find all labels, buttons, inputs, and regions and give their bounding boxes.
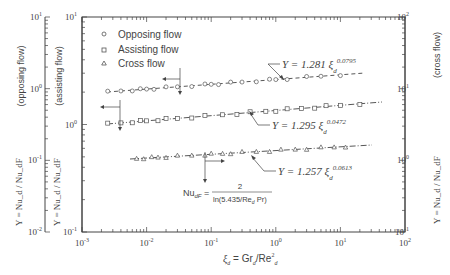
data-point [156, 119, 160, 123]
data-point [203, 113, 207, 117]
annotations: Opposing flow Assisting flow Cross flow … [14, 29, 442, 266]
legend: Opposing flow Assisting flow Cross flow [102, 29, 182, 69]
arrow-down-icon [203, 179, 207, 183]
data-point [209, 151, 213, 155]
y-tick-label: 100 [30, 83, 42, 94]
left-axis-title: Y = Nu_d / Nu_dF [52, 158, 62, 226]
y-tick-label: 100 [65, 119, 77, 130]
data-point [119, 121, 123, 125]
y-tick-label: 100 [397, 154, 409, 165]
legend-square-icon [102, 48, 106, 52]
svg-text:Y = 1.295 ξd0.0472: Y = 1.295 ξd0.0472 [272, 118, 347, 136]
legend-triangle-icon [102, 61, 107, 65]
data-point [203, 82, 207, 86]
right-axis-sub: (cross flow) [432, 32, 442, 78]
x-tick-label: 101 [334, 237, 346, 248]
y-tick-label: 10-1 [28, 154, 42, 165]
data-point [164, 85, 168, 89]
data-point [264, 109, 268, 113]
data-point [119, 89, 123, 93]
data-point [175, 85, 179, 89]
axes: 10-310-210-110010110210-210-110010110-11… [28, 11, 411, 248]
data-point [240, 149, 244, 153]
data-point [221, 113, 225, 117]
data-point [175, 116, 179, 120]
arrow-down-icon [178, 91, 182, 95]
data-point [190, 85, 194, 89]
data-point [267, 149, 271, 153]
data-point [274, 78, 278, 82]
fit-label-middle: Y = 1.295 ξd0.0472 [249, 111, 347, 136]
chart-svg: 10-310-210-110010110210-210-110010110-11… [0, 0, 450, 275]
svg-text:NudF =: NudF = [183, 188, 209, 199]
fit-label-bottom: Y = 1.257 ξd0.0613 [251, 155, 353, 182]
data-point [240, 80, 244, 84]
data-point [313, 106, 317, 110]
data-point [130, 121, 134, 125]
far-left-axis-sub: (opposing flow) [16, 45, 26, 106]
nu-formula: NudF = 2 ln(5.435/Red Pr) [183, 182, 272, 205]
data-point [138, 119, 142, 123]
data-point [279, 147, 283, 151]
y-tick-label: 101 [65, 11, 77, 22]
y-tick-label: 10-2 [28, 226, 42, 237]
svg-text:Y = 1.281 ξd0.0795: Y = 1.281 ξd0.0795 [282, 57, 357, 75]
y-tick-label: 102 [397, 11, 409, 22]
x-tick-label: 10-3 [75, 237, 89, 248]
fit-top-sub: d [333, 67, 337, 75]
data-point [209, 82, 213, 86]
data-point [150, 155, 154, 159]
data-point [175, 153, 179, 157]
data-point [305, 74, 309, 78]
y-tick-label: 10-1 [395, 226, 409, 237]
y-tick-label: 10-1 [63, 226, 77, 237]
data-point [145, 87, 149, 91]
arrow-left-icon [162, 77, 166, 81]
data-point [319, 145, 323, 149]
data-point [338, 74, 342, 78]
left-axis-sub: (assisting flow) [54, 46, 64, 106]
data-point [138, 87, 142, 91]
data-point [324, 104, 328, 108]
data-point [285, 107, 289, 111]
data-point [285, 78, 289, 82]
svg-text:2: 2 [238, 182, 243, 191]
svg-text:ξd = Grd/Re2d: ξd = Grd/Re2d [223, 252, 278, 266]
arrow-down-icon [118, 127, 122, 131]
y-tick-label: 101 [30, 11, 42, 22]
data-point [274, 109, 278, 113]
x-tick-label: 100 [270, 237, 282, 248]
legend-opposing: Opposing flow [118, 29, 182, 40]
data-point [145, 119, 149, 123]
data-point [254, 80, 258, 84]
y-tick-label: 101 [397, 83, 409, 94]
data-point [217, 83, 221, 87]
data-point [268, 77, 272, 81]
x-axis-title: ξd = Grd/Re2d [223, 252, 278, 266]
data-point [164, 116, 168, 120]
chart: 10-310-210-110010110210-210-110010110-11… [0, 0, 450, 275]
data-point [358, 103, 362, 107]
x-tick-label: 10-1 [204, 237, 218, 248]
data-point [338, 103, 342, 107]
right-axis-title: Y = Nu_d / Nu_dF [432, 156, 442, 224]
data-point [190, 116, 194, 120]
arrow-left-icon [100, 105, 104, 109]
legend-cross: Cross flow [118, 58, 165, 69]
data-point [152, 87, 156, 91]
legend-circle-icon [102, 32, 106, 36]
data-point [130, 89, 134, 93]
data-point [300, 106, 304, 110]
svg-text:ln(5.435/Red Pr): ln(5.435/Red Pr) [213, 195, 267, 205]
data-point [229, 80, 233, 84]
data-point [106, 89, 110, 93]
data-point [304, 147, 308, 151]
legend-assisting: Assisting flow [118, 44, 179, 55]
far-left-axis-title: Y = Nu_d / Nu_dF [14, 158, 24, 226]
data-point [319, 74, 323, 78]
data-point [235, 112, 239, 116]
x-tick-label: 102 [399, 237, 411, 248]
arrow-right-icon [221, 159, 225, 163]
svg-text:Y = 1.257 ξd0.0613: Y = 1.257 ξd0.0613 [278, 164, 353, 182]
x-tick-label: 10-2 [140, 237, 154, 248]
